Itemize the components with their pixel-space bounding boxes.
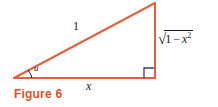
base-label: x bbox=[86, 80, 91, 92]
angle-arc-icon bbox=[28, 70, 32, 78]
hypotenuse-label: 1 bbox=[73, 20, 79, 32]
figure-caption: Figure 6 bbox=[14, 87, 62, 101]
radical-expression: √1−x2 bbox=[158, 30, 193, 47]
radicand-exponent: 2 bbox=[187, 31, 191, 40]
vertical-side-label: √1−x2 bbox=[158, 30, 193, 47]
figure-container: 1 x u √1−x2 Figure 6 bbox=[0, 0, 218, 107]
radicand-minus-operator: − bbox=[171, 32, 182, 46]
angle-label: u bbox=[34, 64, 39, 73]
radicand-group: 1−x2 bbox=[164, 30, 193, 45]
right-angle-marker-icon bbox=[144, 68, 154, 78]
